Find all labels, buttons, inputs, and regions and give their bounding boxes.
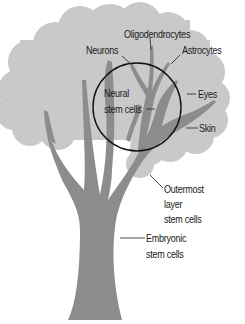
label-astrocytes: Astrocytes bbox=[182, 44, 222, 56]
label-neural-stem-cells-line2: stem cells bbox=[104, 103, 142, 115]
label-embryonic-line2: stem cells bbox=[146, 248, 184, 260]
stem-cell-tree-diagram: Oligodendrocytes Neurons Astrocytes Neur… bbox=[0, 0, 245, 324]
label-neural-stem-cells-line1: Neural bbox=[104, 87, 129, 99]
label-outermost-line2: layer bbox=[164, 198, 182, 210]
label-neurons: Neurons bbox=[86, 44, 118, 56]
label-outermost-line1: Outermost bbox=[164, 183, 204, 195]
label-eyes: Eyes bbox=[198, 88, 217, 100]
label-skin: Skin bbox=[199, 122, 216, 134]
label-outermost-line3: stem cells bbox=[164, 213, 202, 225]
label-oligodendrocytes: Oligodendrocytes bbox=[124, 28, 190, 40]
label-embryonic-line1: Embryonic bbox=[146, 232, 186, 244]
